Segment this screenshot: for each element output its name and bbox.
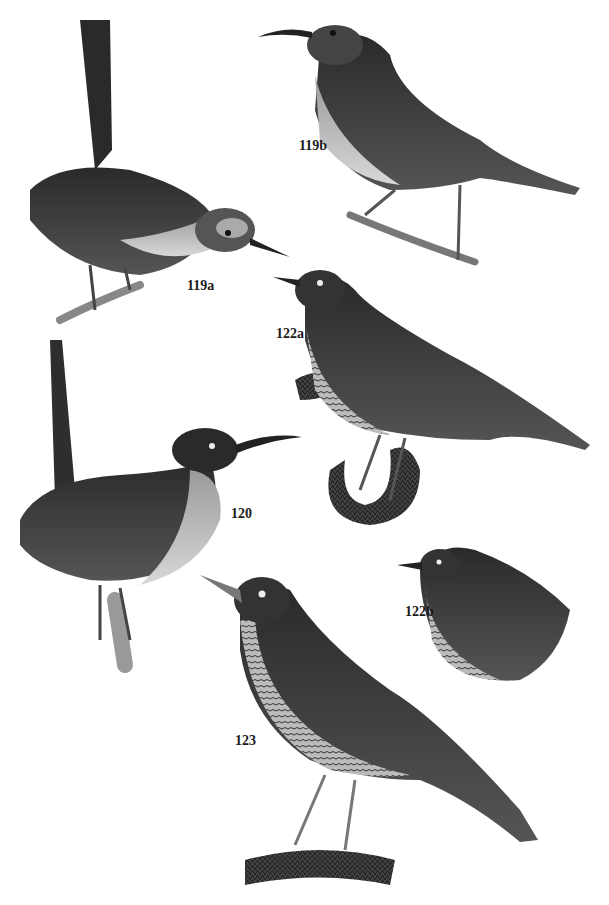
illustration-plate: 119a 119b 122a 120 122b 123 (0, 0, 609, 905)
bird-119a (30, 20, 290, 320)
figure-label-123: 123 (235, 733, 256, 749)
bird-122a (273, 270, 590, 525)
figure-label-119a: 119a (187, 278, 214, 294)
figure-label-119b: 119b (299, 138, 327, 154)
figure-label-120: 120 (231, 506, 252, 522)
figure-label-122a: 122a (276, 326, 304, 342)
birds-illustration (0, 0, 609, 905)
figure-label-122b: 122b (405, 604, 434, 620)
